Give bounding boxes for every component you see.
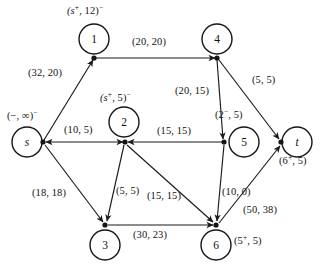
edge-label-4-t: (5, 5)	[252, 75, 275, 86]
node-label-1: 1	[91, 33, 97, 45]
edge-label-s-1: (32, 20)	[28, 68, 62, 79]
edge-label-2-3: (5, 5)	[116, 186, 139, 197]
flow-label-node-2: (s+, 5)−	[100, 93, 131, 104]
node-label-5: 5	[241, 136, 247, 148]
junction-dot-s	[40, 139, 45, 144]
node-label-3: 3	[102, 239, 108, 251]
flow-label-node-t: (6+, 5)	[279, 156, 307, 167]
flow-label-node-5: (2−, 5)	[215, 110, 243, 121]
junction-dot-1	[91, 55, 96, 60]
edge-4-5	[217, 60, 223, 139]
junction-dot-3	[102, 222, 107, 227]
edge-label-4-5: (20, 15)	[175, 86, 209, 97]
edge-label-6-t: (50, 38)	[243, 205, 277, 216]
edge-label-2-6: (15, 15)	[147, 191, 181, 202]
edge-label-s-2: (10, 5)	[64, 125, 93, 136]
node-label-2: 2	[121, 116, 127, 128]
flow-label-node-6: (5+, 5)	[234, 236, 262, 247]
network-flow-diagram: s 1 2 3 4 5 6 t (s+, 12)− (s+, 5)− (−, ∞…	[0, 0, 323, 272]
edge-label-5-6: (10, 0)	[222, 187, 251, 198]
edge-label-5-2: (15, 15)	[157, 126, 191, 137]
edge-2-3	[107, 145, 124, 221]
junction-dot-4	[214, 55, 219, 60]
flow-label-node-1: (s+, 12)−	[67, 6, 103, 17]
edge-label-1-4: (20, 20)	[132, 37, 166, 48]
edge-2-6	[127, 145, 213, 222]
node-label-6: 6	[213, 239, 219, 251]
edge-label-s-3: (18, 18)	[32, 188, 66, 199]
junction-dot-2	[122, 139, 127, 144]
node-label-4: 4	[214, 33, 220, 45]
junction-dot-6	[213, 222, 218, 227]
edge-5-6	[217, 145, 224, 221]
node-label-s: s	[25, 136, 30, 148]
edge-s-3	[45, 145, 103, 222]
junction-dot-t	[278, 139, 283, 144]
flow-label-node-s: (−, ∞)−	[7, 111, 38, 122]
edge-label-3-6: (30, 23)	[133, 230, 167, 241]
junction-dot-5	[221, 139, 226, 144]
